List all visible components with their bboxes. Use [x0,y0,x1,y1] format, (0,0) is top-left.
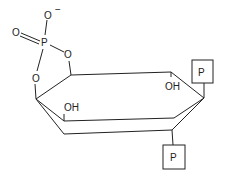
atom-o-ring-right: O [64,49,72,60]
atom-o-minus: O [44,10,52,21]
bond-p-box-bottom [172,130,173,145]
bond-p-oring-right [50,45,64,52]
ring-middle-edge [36,98,204,121]
bond-p-double-1 [21,33,40,41]
atom-o-ring-left: O [32,73,40,84]
bond-oright-c [69,61,71,75]
phosphate-label-bottom: P [170,152,177,163]
hydroxyl-2: OH [165,81,180,92]
bond-oleft-c [35,84,36,99]
atom-o-double: O [12,27,20,38]
bond-p-double-2 [20,36,39,44]
atom-phosphorus: P [41,37,48,48]
minus-sign: − [55,4,61,15]
ring-bottom-edge [36,98,204,134]
bond-p-ominus [45,20,47,35]
inositol-phosphate-structure: P P O − O P O O OH OH [0,0,226,178]
phosphate-label-top: P [198,67,205,78]
hydroxyl-1: OH [64,102,79,113]
bond-p-oring-left [37,49,43,71]
